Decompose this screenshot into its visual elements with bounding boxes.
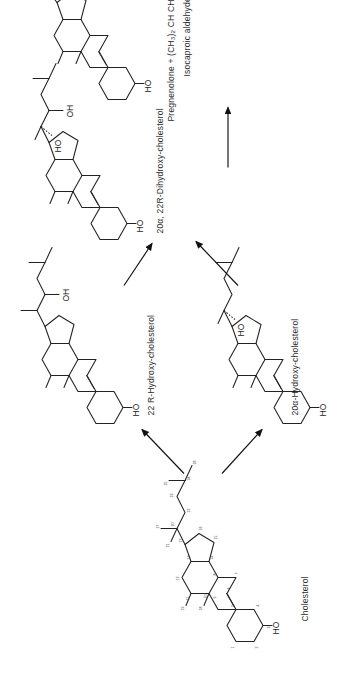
reaction-scheme: HO 1 2 3 4 5 6 7 8 9 10 11 12 13 14 [0, 0, 360, 673]
arrow-cholesterol-to-22r [142, 429, 184, 473]
arrow-layer [0, 0, 360, 673]
arrow-20a-to-dihydroxy [196, 241, 238, 285]
arrow-cholesterol-to-20a [222, 429, 262, 473]
diagram-canvas: HO 1 2 3 4 5 6 7 8 9 10 11 12 13 14 [0, 0, 360, 673]
arrow-22r-to-dihydroxy [124, 243, 152, 285]
